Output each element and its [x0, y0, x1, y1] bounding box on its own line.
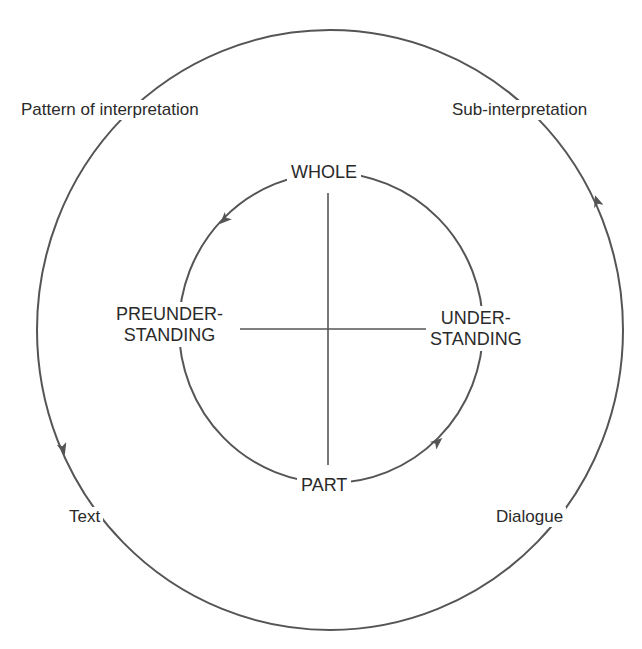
- label-pattern-of-interpretation: Pattern of interpretation: [19, 100, 201, 120]
- label-part: PART: [297, 475, 351, 496]
- label-understanding: UNDER- STANDING: [430, 306, 522, 351]
- label-preunderstanding-line1: PREUNDER-: [116, 304, 223, 325]
- label-dialogue: Dialogue: [493, 507, 566, 527]
- label-preunderstanding-line2: STANDING: [116, 325, 223, 346]
- label-understanding-line2: STANDING: [430, 329, 522, 350]
- label-understanding-line1: UNDER-: [430, 308, 522, 329]
- label-sub-interpretation: Sub-interpretation: [450, 100, 589, 120]
- label-whole: WHOLE: [287, 162, 361, 183]
- hermeneutic-circle-diagram: [0, 0, 642, 649]
- label-text: Text: [66, 507, 103, 527]
- arrow-icon: [222, 208, 236, 222]
- label-preunderstanding: PREUNDER- STANDING: [116, 302, 223, 347]
